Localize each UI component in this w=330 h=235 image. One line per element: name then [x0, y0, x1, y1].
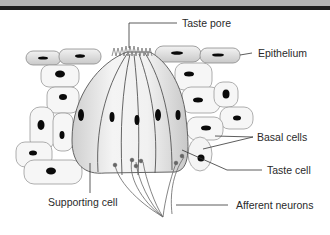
label-epithelium: Epithelium: [258, 48, 307, 59]
label-afferent-neurons: Afferent neurons: [236, 200, 313, 211]
label-taste-pore: Taste pore: [182, 18, 231, 29]
label-supporting-cell: Supporting cell: [48, 197, 117, 208]
taste-bud: [72, 46, 188, 175]
label-taste-cell: Taste cell: [267, 165, 311, 176]
label-basal-cells: Basal cells: [257, 132, 307, 143]
left-basal-cells: [16, 65, 82, 184]
